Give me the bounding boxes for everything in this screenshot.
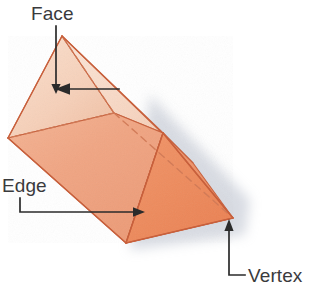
diagram-canvas: Face Edge Vertex xyxy=(0,0,325,296)
triangular-prism-figure xyxy=(0,0,325,296)
label-face: Face xyxy=(31,4,74,23)
label-edge: Edge xyxy=(2,176,47,195)
label-vertex: Vertex xyxy=(248,266,302,285)
